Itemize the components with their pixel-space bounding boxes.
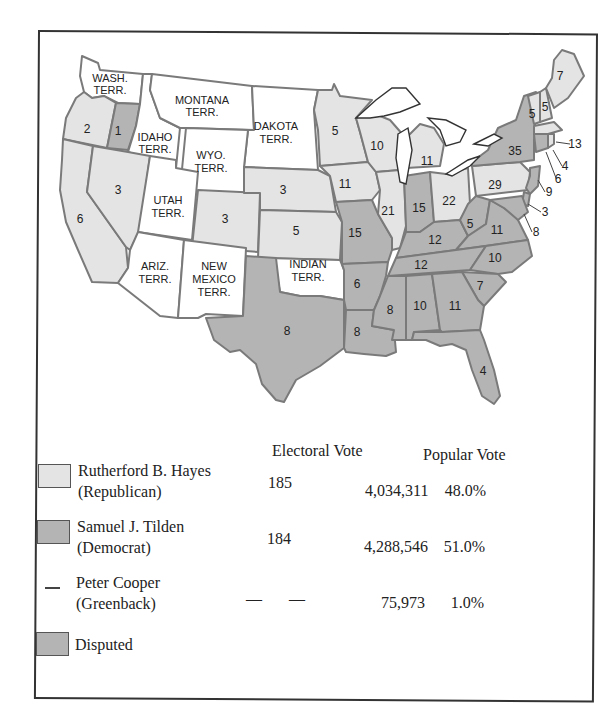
cooper-name-text: Peter Cooper bbox=[76, 572, 160, 593]
cooper-party: (Greenback) bbox=[76, 593, 160, 614]
tilden-party: (Democrat) bbox=[77, 537, 184, 558]
cooper-electoral-dash-2: — bbox=[289, 590, 305, 608]
hayes-percent: 48.0% bbox=[438, 482, 486, 500]
cooper-electoral-dash-1: — bbox=[246, 590, 262, 608]
hayes-name: Rutherford B. Hayes (Republican) bbox=[78, 460, 211, 502]
cooper-swatch-dash bbox=[45, 587, 60, 589]
tilden-popular: 4,288,546 bbox=[364, 538, 426, 556]
electoral-vote-header: Electoral Vote bbox=[272, 442, 363, 460]
tilden-electoral: 184 bbox=[267, 530, 291, 548]
cooper-percent: 1.0% bbox=[436, 594, 484, 612]
tilden-swatch bbox=[37, 520, 70, 544]
tilden-name-text: Samuel J. Tilden bbox=[77, 516, 184, 537]
cooper-name: Peter Cooper (Greenback) bbox=[76, 572, 160, 614]
hayes-party: (Republican) bbox=[78, 481, 211, 502]
tilden-percent: 51.0% bbox=[437, 538, 485, 556]
tilden-name: Samuel J. Tilden (Democrat) bbox=[77, 516, 184, 558]
cooper-popular: 75,973 bbox=[363, 594, 425, 612]
legend: Electoral Vote Popular Vote Rutherford B… bbox=[0, 0, 614, 723]
hayes-swatch bbox=[38, 464, 71, 488]
disputed-label: Disputed bbox=[75, 634, 133, 655]
popular-vote-header: Popular Vote bbox=[423, 446, 506, 464]
hayes-name-text: Rutherford B. Hayes bbox=[78, 460, 211, 481]
hayes-popular: 4,034,311 bbox=[365, 482, 427, 500]
disputed-swatch bbox=[36, 632, 69, 656]
hayes-electoral: 185 bbox=[268, 474, 292, 492]
